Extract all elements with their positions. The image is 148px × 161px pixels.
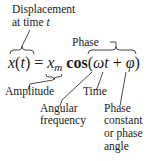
equation: x(t) = xm cos(ωt + φ) xyxy=(8,54,140,76)
eq-equals: = xyxy=(34,54,43,71)
eq-omega: ω xyxy=(93,54,104,71)
eq-amp-sub: m xyxy=(54,61,62,73)
displacement-label-var: t xyxy=(47,16,50,28)
phase-pointer-line xyxy=(110,42,116,48)
eq-func: cos xyxy=(66,54,87,71)
angular-frequency-label-line2: frequency xyxy=(40,114,86,126)
displacement-label: Displacement xyxy=(12,3,75,15)
phase-brace xyxy=(88,47,136,54)
phase-constant-label-line2: constant xyxy=(104,114,142,126)
displacement-label-line2: at time t xyxy=(12,16,50,28)
eq-t: t xyxy=(104,54,108,71)
phase-constant-pointer-line xyxy=(120,72,126,106)
phase-constant-label-line1: Phase xyxy=(104,102,131,114)
phase-constant-label-line4: angle xyxy=(104,140,129,152)
displacement-label-prefix: at time xyxy=(12,16,47,28)
time-label: Time xyxy=(83,85,107,97)
eq-plus: + xyxy=(113,54,122,71)
eq-phi: φ xyxy=(126,54,135,71)
eq-paren-close: ) xyxy=(25,54,30,71)
amplitude-label: Amplitude xyxy=(5,85,54,97)
angular-frequency-label-line1: Angular xyxy=(40,102,78,114)
phase-constant-label-line3: or phase xyxy=(104,127,143,139)
displacement-pointer-line xyxy=(22,30,30,46)
displacement-label-line1: Displacement xyxy=(12,3,75,15)
phase-label: Phase xyxy=(72,36,99,48)
eq-arg-close: ) xyxy=(135,54,140,71)
displacement-brace xyxy=(10,46,34,54)
